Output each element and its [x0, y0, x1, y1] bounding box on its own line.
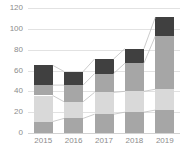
bar-segment[interactable] — [95, 59, 114, 74]
x-axis-tick-label: 2019 — [156, 136, 174, 146]
bar-segment[interactable] — [155, 89, 174, 110]
bar-segment[interactable] — [64, 118, 83, 133]
y-axis-tick-label: 0 — [19, 129, 23, 137]
x-axis-tick-label: 2017 — [95, 136, 113, 146]
bar-segment[interactable] — [155, 17, 174, 36]
bar-segment[interactable] — [125, 91, 144, 112]
bar-segment[interactable] — [34, 122, 53, 133]
bar-segment[interactable] — [64, 85, 83, 102]
bar-segment[interactable] — [34, 85, 53, 95]
bar-segment[interactable] — [95, 92, 114, 114]
plot-area — [28, 8, 180, 133]
bar-segment[interactable] — [125, 112, 144, 133]
bar-segment[interactable] — [125, 49, 144, 64]
y-axis-labels: 020406080100120 — [0, 0, 26, 141]
bar-segment[interactable] — [64, 72, 83, 86]
x-axis-labels: 20152016201720182019 — [28, 136, 180, 156]
bar-segment[interactable] — [34, 65, 53, 85]
stacked-bar-chart: 020406080100120 20152016201720182019 — [0, 0, 188, 161]
x-axis-line — [28, 133, 180, 134]
y-axis-tick-label: 40 — [14, 87, 23, 95]
bar-group[interactable] — [34, 8, 53, 133]
y-axis-tick-label: 60 — [14, 67, 23, 75]
bar-group[interactable] — [64, 8, 83, 133]
bar-group[interactable] — [125, 8, 144, 133]
x-axis-tick-label: 2015 — [34, 136, 52, 146]
bars-layer — [28, 8, 180, 133]
bar-group[interactable] — [95, 8, 114, 133]
bar-segment[interactable] — [125, 63, 144, 91]
bar-segment[interactable] — [155, 36, 174, 89]
bar-segment[interactable] — [155, 110, 174, 133]
bar-segment[interactable] — [34, 96, 53, 122]
x-axis-tick-label: 2016 — [65, 136, 83, 146]
bar-segment[interactable] — [95, 74, 114, 93]
x-axis-tick-label: 2018 — [125, 136, 143, 146]
bar-segment[interactable] — [95, 114, 114, 133]
y-axis-tick-label: 120 — [10, 4, 23, 12]
y-axis-tick-label: 80 — [14, 46, 23, 54]
bar-group[interactable] — [155, 8, 174, 133]
y-axis-tick-label: 100 — [10, 25, 23, 33]
bar-segment[interactable] — [64, 102, 83, 119]
y-axis-tick-label: 20 — [14, 108, 23, 116]
